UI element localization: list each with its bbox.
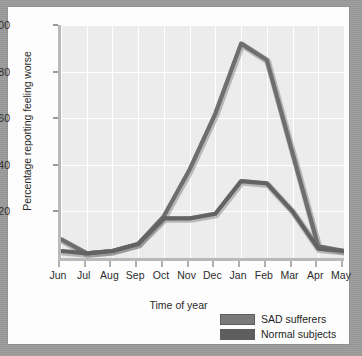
chart-legend: SAD sufferers Normal subjects [220, 313, 344, 343]
x-axis-tick-mark [187, 261, 189, 267]
x-axis-tick-label: May [331, 269, 351, 281]
legend-swatch-sad-sufferers [220, 314, 255, 325]
x-axis-tick-mark [264, 261, 266, 267]
x-axis-tick-mark [161, 261, 163, 267]
line-chart: Percentage reporting feeling worse 20406… [8, 7, 349, 344]
y-axis-tick-label: 80 [0, 66, 10, 78]
legend-item: Normal subjects [220, 328, 344, 340]
x-axis-tick-label: Nov [177, 269, 196, 281]
plot-inner [61, 25, 344, 258]
x-axis-title: Time of year [8, 299, 349, 311]
legend-label: Normal subjects [261, 328, 336, 340]
x-axis-tick-mark [84, 261, 86, 267]
x-axis-tick-label: Oct [153, 269, 169, 281]
y-axis-tick-mark [53, 71, 58, 73]
x-axis-tick-label: Jul [77, 269, 90, 281]
x-axis-tick-mark [341, 261, 343, 267]
x-axis-tick-label: Sep [126, 269, 145, 281]
plot-area [58, 25, 344, 261]
figure-card: Percentage reporting feeling worse 20406… [8, 7, 349, 344]
x-axis-tick-mark [58, 261, 60, 267]
x-axis-tick-label: Aug [100, 269, 119, 281]
x-axis-tick-label: Jun [50, 269, 67, 281]
x-axis-tick-label: Feb [255, 269, 273, 281]
x-axis-tick-mark [212, 261, 214, 267]
x-axis-tick-mark [290, 261, 292, 267]
x-axis-tick-mark [109, 261, 111, 267]
y-axis-tick-mark [53, 164, 58, 166]
y-axis-tick-label: 60 [0, 112, 10, 124]
y-axis-tick-label: 40 [0, 159, 10, 171]
series-layer [61, 25, 344, 258]
y-axis-tick-mark [53, 117, 58, 119]
x-axis-tick-mark [315, 261, 317, 267]
x-axis-tick-mark [238, 261, 240, 267]
x-axis-tick-mark [135, 261, 137, 267]
y-axis-tick-label: 100 [0, 19, 10, 31]
y-axis-title: Percentage reporting feeling worse [21, 33, 33, 229]
x-axis-tick-label: Jan [230, 269, 247, 281]
legend-item: SAD sufferers [220, 313, 344, 325]
x-axis-tick-label: Dec [203, 269, 222, 281]
y-axis-tick-label: 20 [0, 205, 10, 217]
x-axis-tick-label: Mar [280, 269, 298, 281]
legend-label: SAD sufferers [261, 313, 326, 325]
x-axis-tick-label: Apr [307, 269, 323, 281]
y-axis-tick-mark [53, 24, 58, 26]
legend-swatch-normal-subjects [220, 329, 255, 340]
y-axis-tick-mark [53, 210, 58, 212]
